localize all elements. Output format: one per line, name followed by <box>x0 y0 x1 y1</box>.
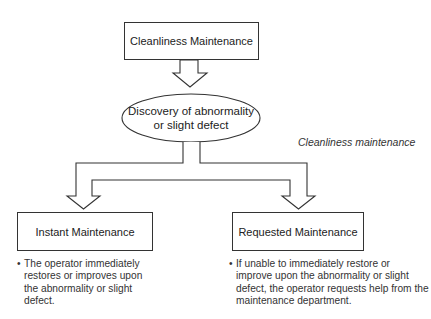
cleanliness-maintenance-label: Cleanliness Maintenance <box>130 35 253 47</box>
bullet-icon: • <box>17 258 21 270</box>
requested-maintenance-label: Requested Maintenance <box>238 226 357 238</box>
instant-maintenance-description: • The operator immediately restores or i… <box>17 258 147 308</box>
ellipse-line-1: Discovery of abnormality <box>122 104 260 118</box>
down-arrow-icon <box>173 60 207 87</box>
bullet-icon: • <box>229 258 233 270</box>
instant-description-text: The operator immediately restores or imp… <box>24 258 147 308</box>
instant-maintenance-box: Instant Maintenance <box>17 212 153 251</box>
requested-maintenance-description: • If unable to immediately restore or im… <box>229 258 429 308</box>
instant-maintenance-label: Instant Maintenance <box>35 226 134 238</box>
split-arrow-icon <box>67 142 315 209</box>
requested-description-text: If unable to immediately restore or impr… <box>236 258 429 308</box>
requested-maintenance-box: Requested Maintenance <box>232 212 364 251</box>
discovery-ellipse-text: Discovery of abnormality or slight defec… <box>122 104 260 132</box>
cleanliness-maintenance-box: Cleanliness Maintenance <box>124 22 259 60</box>
ellipse-line-2: or slight defect <box>122 118 260 132</box>
side-note: Cleanliness maintenance <box>298 136 415 148</box>
